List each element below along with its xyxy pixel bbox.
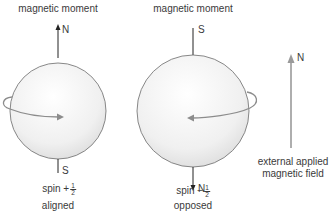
left-magnetic-moment-arrow: [56, 24, 61, 58]
left-spin-text: spin +: [42, 183, 69, 194]
field-label-line1: external applied: [258, 156, 329, 167]
middle-spin-fraction: 12: [204, 185, 210, 198]
left-title: magnetic moment: [18, 3, 97, 14]
middle-sphere: [137, 55, 249, 167]
left-sphere: [10, 63, 106, 159]
external-field-arrow: [288, 54, 295, 148]
field-label-line2: magnetic field: [262, 168, 324, 179]
left-bottom-pole: S: [62, 165, 69, 176]
field-pole: N: [297, 52, 304, 63]
middle-spin-text: spin −: [176, 185, 203, 196]
left-top-pole: N: [62, 24, 69, 35]
middle-spin-label-visible: spin −12: [176, 185, 210, 198]
middle-state: opposed: [174, 200, 212, 211]
left-spin-label: spin +12: [42, 183, 76, 196]
left-state: aligned: [42, 200, 74, 211]
middle-title: magnetic moment: [153, 3, 232, 14]
middle-top-pole: S: [198, 24, 205, 35]
left-spin-fraction: 12: [70, 183, 76, 196]
